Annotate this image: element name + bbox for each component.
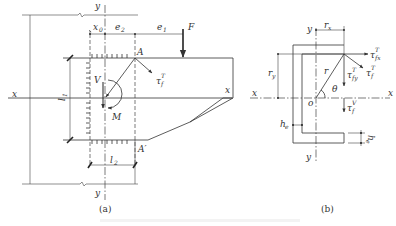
svg-text:y: y: [271, 72, 276, 80]
svg-text:f: f: [370, 72, 375, 80]
dimension-l1: [67, 55, 73, 143]
svg-text:T: T: [375, 46, 380, 53]
weld-diagram: x x y y x 0 e 2 e 1 F A A′ V M τ f T l 1…: [0, 0, 396, 226]
label-l2: l: [110, 155, 113, 165]
svg-text:2: 2: [113, 159, 118, 166]
svg-text:e: e: [285, 123, 289, 130]
label-y-top: y: [94, 1, 101, 11]
panel-a: x x y y x 0 e 2 e 1 F A A′ V M τ f T l 1…: [8, 1, 233, 214]
label-x0: x: [93, 22, 98, 32]
label-moment-m: M: [111, 112, 122, 122]
label-theta: θ: [332, 84, 338, 94]
label-point-a: A: [136, 47, 144, 57]
svg-text:T: T: [161, 72, 166, 79]
labels-a: x x y y x 0 e 2 e 1 F A A′ V M τ f T l 1…: [12, 1, 230, 214]
label-y-top-b: y: [306, 24, 313, 34]
label-force-f: F: [187, 22, 195, 32]
stress-vectors-b: [316, 54, 368, 112]
svg-text:1: 1: [163, 26, 167, 33]
svg-text:0: 0: [99, 26, 103, 33]
dimension-top: [89, 31, 183, 35]
panel-b: x x y y o r x r y r θ τ fx T τ fy T τ f …: [250, 20, 393, 214]
label-l1: l: [57, 98, 67, 101]
label-y-bottom: y: [94, 188, 101, 198]
svg-text:2: 2: [120, 26, 125, 33]
label-y-bottom-b: y: [305, 152, 312, 162]
caption-b: (b): [321, 204, 334, 214]
svg-text:fx: fx: [374, 54, 381, 62]
svg-text:f: f: [160, 80, 165, 88]
label-e2: e: [115, 22, 120, 32]
label-point-a-prime: A′: [137, 144, 147, 154]
svg-text:e: e: [365, 140, 372, 144]
svg-text:T: T: [371, 64, 376, 71]
svg-text:fy: fy: [351, 74, 358, 82]
label-r: r: [324, 66, 329, 76]
label-x-right-b: x: [388, 88, 393, 98]
svg-text:f: f: [351, 107, 356, 115]
label-x-left: x: [12, 89, 17, 99]
weld-hatch: [63, 54, 127, 144]
label-e1: e: [157, 22, 162, 32]
footer-caption: [100, 219, 300, 222]
caption-a: (a): [99, 204, 111, 214]
labels-b: x x y y o r x r y r θ τ fx T τ fy T τ f …: [252, 20, 393, 214]
label-shear-v: V: [94, 75, 102, 85]
stress-vectors-a: [103, 58, 152, 108]
svg-text:1: 1: [61, 93, 68, 97]
label-x-right: x: [225, 85, 230, 95]
svg-text:V: V: [352, 99, 357, 106]
label-x-left-b: x: [252, 88, 257, 98]
gusset-plate: [88, 58, 233, 140]
svg-text:T: T: [352, 66, 357, 73]
label-origin: o: [308, 98, 314, 108]
